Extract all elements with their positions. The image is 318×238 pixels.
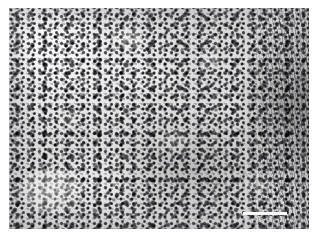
watermark-credit-text: · · · · · · · · · · · · · · bbox=[227, 221, 303, 224]
histopathology-micrograph: 50 µm · · · · · · · · · · · · · · bbox=[9, 8, 309, 229]
pale-nodule-lower-left bbox=[21, 168, 83, 214]
scale-bar-group: 50 µm · · · · · · · · · · · · · · bbox=[227, 212, 303, 224]
figure-root: 50 µm · · · · · · · · · · · · · · bbox=[0, 0, 318, 238]
